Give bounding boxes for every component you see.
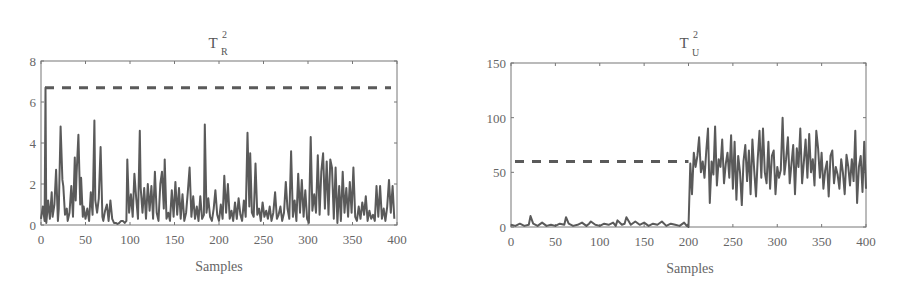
y-tick-label: 2 bbox=[30, 177, 37, 192]
x-tick-label: 200 bbox=[209, 232, 229, 247]
chart-tu2-xlabel: Samples bbox=[666, 261, 713, 276]
y-tick-label: 0 bbox=[30, 218, 37, 233]
x-tick-label: 400 bbox=[387, 232, 407, 247]
chart-tu2-title-sup: 2 bbox=[693, 29, 698, 40]
x-tick-label: 0 bbox=[508, 234, 515, 249]
chart-tr2: T 2 R 05010015020025030035040002468 Samp… bbox=[30, 29, 407, 274]
y-tick-label: 4 bbox=[30, 136, 37, 151]
x-tick-label: 50 bbox=[79, 232, 92, 247]
y-tick-label: 0 bbox=[500, 220, 507, 235]
y-tick-label: 6 bbox=[30, 95, 37, 110]
chart-tu2: T 2 U 050100150200250300350400050100150 … bbox=[487, 29, 876, 276]
x-tick-label: 150 bbox=[165, 232, 185, 247]
chart-tu2-title-sub: U bbox=[692, 47, 700, 58]
figure: T 2 R 05010015020025030035040002468 Samp… bbox=[0, 0, 898, 290]
x-tick-label: 100 bbox=[590, 234, 610, 249]
y-tick-label: 50 bbox=[493, 165, 506, 180]
chart-tr2-series-line bbox=[41, 88, 394, 224]
y-tick-label: 8 bbox=[30, 54, 37, 69]
chart-tr2-title-sup: 2 bbox=[222, 29, 227, 40]
y-tick-label: 150 bbox=[487, 56, 507, 71]
chart-tu2-title-base: T bbox=[679, 35, 688, 51]
x-tick-label: 0 bbox=[38, 232, 45, 247]
chart-tr2-title-sub: R bbox=[221, 46, 228, 57]
x-tick-label: 50 bbox=[549, 234, 562, 249]
x-tick-label: 250 bbox=[254, 232, 274, 247]
chart-tu2-plot: 050100150200250300350400050100150 bbox=[487, 56, 876, 249]
x-tick-label: 300 bbox=[768, 234, 788, 249]
x-tick-label: 250 bbox=[723, 234, 743, 249]
y-tick-label: 100 bbox=[487, 111, 507, 126]
chart-tr2-plot: 05010015020025030035040002468 bbox=[30, 54, 407, 247]
x-tick-label: 400 bbox=[856, 234, 876, 249]
x-tick-label: 350 bbox=[812, 234, 832, 249]
chart-tu2-series-line bbox=[511, 118, 866, 227]
chart-tr2-xlabel: Samples bbox=[195, 259, 242, 274]
chart-tr2-title-base: T bbox=[208, 35, 217, 51]
x-tick-label: 100 bbox=[120, 232, 140, 247]
x-tick-label: 300 bbox=[298, 232, 318, 247]
x-tick-label: 350 bbox=[343, 232, 363, 247]
x-tick-label: 200 bbox=[679, 234, 699, 249]
x-tick-label: 150 bbox=[634, 234, 654, 249]
